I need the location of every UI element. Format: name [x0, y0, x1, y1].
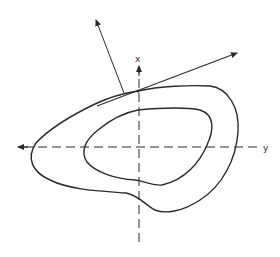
normal-vector [96, 20, 124, 93]
horizontal-axis-label: y [263, 143, 269, 153]
tangent-vector [97, 53, 237, 106]
vertical-axis-label: x [135, 54, 141, 64]
diagram-canvas: x y [0, 0, 280, 257]
tangent-point [137, 90, 140, 93]
outer-contour [31, 86, 238, 212]
